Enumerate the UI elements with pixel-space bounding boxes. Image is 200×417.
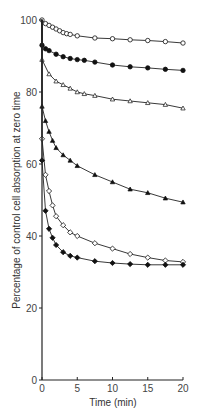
data-point-filled-triangle xyxy=(93,173,97,177)
data-point-filled-circle xyxy=(163,67,167,71)
data-point-filled-triangle xyxy=(54,146,58,150)
data-point-filled-circle xyxy=(110,63,114,67)
data-point-open-circle xyxy=(181,41,185,45)
data-point-open-triangle xyxy=(68,86,72,90)
data-point-filled-diamond xyxy=(163,262,168,267)
data-point-filled-diamond xyxy=(50,235,55,240)
data-point-filled-circle xyxy=(61,55,65,59)
data-point-open-triangle xyxy=(61,83,65,87)
data-point-filled-circle xyxy=(93,60,97,64)
series-open-circle xyxy=(40,18,185,45)
y-axis-title: Percentage of control cell absorption at… xyxy=(11,91,22,309)
data-point-filled-diamond xyxy=(128,261,133,266)
data-point-open-diamond xyxy=(46,188,51,193)
x-tick-label: 5 xyxy=(74,383,80,394)
data-point-open-circle xyxy=(163,39,167,43)
ticks: 05101520020406080100 xyxy=(20,15,189,395)
y-tick-label: 20 xyxy=(26,303,38,314)
data-point-open-circle xyxy=(93,36,97,40)
data-point-filled-diamond xyxy=(68,253,73,258)
series-line xyxy=(42,20,183,202)
data-point-open-circle xyxy=(110,37,114,41)
data-point-filled-circle xyxy=(68,56,72,60)
data-point-filled-diamond xyxy=(110,260,115,265)
data-point-filled-circle xyxy=(181,68,185,72)
data-point-filled-circle xyxy=(82,58,86,62)
x-axis-title: Time (min) xyxy=(89,397,136,408)
x-tick-label: 10 xyxy=(107,383,119,394)
data-point-filled-diamond xyxy=(75,255,80,260)
y-tick-label: 100 xyxy=(20,15,37,26)
y-tick-label: 80 xyxy=(26,87,38,98)
x-tick-label: 15 xyxy=(142,383,154,394)
data-point-open-triangle xyxy=(75,90,79,94)
data-point-open-circle xyxy=(68,32,72,36)
data-point-filled-diamond xyxy=(92,259,97,264)
data-point-open-circle xyxy=(146,38,150,42)
data-point-open-circle xyxy=(75,34,79,38)
series-filled-circle xyxy=(40,20,185,73)
data-point-filled-circle xyxy=(47,48,51,52)
data-point-filled-circle xyxy=(75,57,79,61)
data-point-open-circle xyxy=(128,38,132,42)
data-point-open-diamond xyxy=(145,255,150,260)
data-point-open-diamond xyxy=(92,241,97,246)
data-point-open-diamond xyxy=(110,246,115,251)
data-point-open-diamond xyxy=(50,203,55,208)
data-point-filled-diamond xyxy=(145,262,150,267)
y-tick-label: 40 xyxy=(26,231,38,242)
data-point-open-diamond xyxy=(75,233,80,238)
axes xyxy=(42,19,183,380)
chart: 05101520020406080100 Time (min) Percenta… xyxy=(0,0,200,417)
data-point-filled-circle xyxy=(146,66,150,70)
data-point-filled-triangle xyxy=(47,129,51,133)
y-tick-label: 60 xyxy=(26,159,38,170)
series-layer xyxy=(39,18,185,268)
data-point-filled-circle xyxy=(54,52,58,56)
data-point-open-triangle xyxy=(47,72,51,76)
data-point-filled-circle xyxy=(128,65,132,69)
x-tick-label: 20 xyxy=(177,383,189,394)
series-filled-triangle xyxy=(40,20,185,204)
x-tick-label: 0 xyxy=(39,383,45,394)
data-point-filled-triangle xyxy=(50,138,54,142)
data-point-filled-triangle xyxy=(43,119,47,123)
y-tick-label: 0 xyxy=(31,375,37,386)
data-point-open-diamond xyxy=(43,172,48,177)
data-point-filled-diamond xyxy=(43,208,48,213)
data-point-open-diamond xyxy=(128,251,133,256)
data-point-filled-diamond xyxy=(46,226,51,231)
